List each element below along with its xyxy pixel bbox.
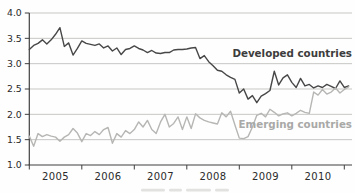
cutoff-caption-remnant [141,189,229,192]
x-tick-label-2007: 2007 [147,171,174,182]
y-tick-label: 1.5 [7,134,22,145]
developed-series-line [29,28,348,103]
y-tick-label: 2.5 [7,83,22,94]
line-chart: 4.03.53.02.52.01.51.02005200620072008200… [0,0,355,193]
axes [25,13,352,170]
emerging-series-line [29,87,348,146]
x-tick-label-2006: 2006 [95,171,122,182]
y-tick-label: 2.0 [7,109,22,120]
x-tick-label-2008: 2008 [200,171,227,182]
emerging-series-label: Emerging countries [239,118,353,130]
y-tick-label: 3.5 [7,33,22,44]
developed-series-label: Developed countries [232,47,352,59]
y-tick-label: 4.0 [7,7,22,18]
chart-figure: 4.03.53.02.52.01.51.02005200620072008200… [0,0,355,193]
y-tick-label: 1.0 [7,159,22,170]
x-tick-label-2010: 2010 [305,171,332,182]
y-tick-label: 3.0 [7,58,22,69]
x-tick-label-2009: 2009 [252,171,279,182]
x-tick-label-2005: 2005 [42,171,69,182]
